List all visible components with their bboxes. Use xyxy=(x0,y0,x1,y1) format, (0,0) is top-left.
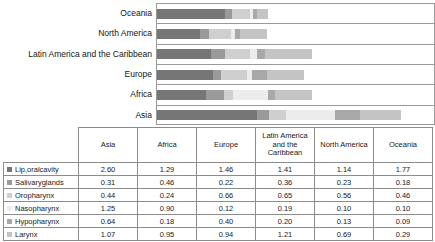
table-cell-value: 1.14 xyxy=(315,163,374,176)
chart-plot-grid: OceaniaNorth AmericaLatin America and th… xyxy=(0,3,435,125)
legend-swatch-icon xyxy=(7,180,12,185)
data-table-container: AsiaAfricaEuropeLatin America and the Ca… xyxy=(3,127,432,241)
table-row: Oropharynx0.440.240.660.650.560.46 xyxy=(4,189,433,202)
chart-category-label: Latin America and the Caribbean xyxy=(0,49,156,59)
table-cell-value: 0.64 xyxy=(79,215,138,228)
series-label: Nasopharynx xyxy=(15,204,59,213)
bar-segment xyxy=(269,110,286,120)
stacked-bar xyxy=(156,70,304,80)
table-cell-value: 1.21 xyxy=(256,228,315,241)
table-row-header: Salivaryglands xyxy=(4,176,79,189)
bar-segment xyxy=(209,29,231,39)
table-cell-value: 0.10 xyxy=(374,202,433,215)
bar-segment xyxy=(257,110,269,120)
bar-segment xyxy=(213,70,222,80)
chart-plot-cell xyxy=(156,3,435,23)
table-cell-value: 0.20 xyxy=(256,215,315,228)
table-row-header: Nasopharynx xyxy=(4,202,79,215)
data-table: AsiaAfricaEuropeLatin America and the Ca… xyxy=(3,127,433,241)
table-column-header: Africa xyxy=(138,128,197,163)
series-label: Lip,oralcavity xyxy=(15,165,59,174)
table-column-header: Asia xyxy=(79,128,138,163)
table-cell-value: 0.56 xyxy=(315,189,374,202)
table-column-header: Latin America and the Caribbean xyxy=(256,128,315,163)
chart-plot-cell xyxy=(156,23,435,43)
table-cell-value: 0.09 xyxy=(374,215,433,228)
table-cell-value: 0.90 xyxy=(138,202,197,215)
stacked-bar xyxy=(156,29,267,39)
chart-plot-cell xyxy=(156,84,435,104)
bar-segment xyxy=(360,110,402,120)
bar-segment xyxy=(156,70,213,80)
chart-category-label: Europe xyxy=(0,69,156,79)
chart-category-label: Asia xyxy=(0,110,156,120)
table-cell-value: 0.23 xyxy=(315,176,374,189)
chart-plot-cell xyxy=(156,44,435,64)
table-cell-value: 1.07 xyxy=(79,228,138,241)
bar-segment xyxy=(156,9,225,19)
bar-segment xyxy=(206,90,224,100)
table-cell-value: 0.44 xyxy=(79,189,138,202)
table-cell-value: 0.10 xyxy=(315,202,374,215)
legend-swatch-icon xyxy=(7,193,12,198)
table-row-header: Lip,oralcavity xyxy=(4,163,79,176)
table-row-header: Larynx xyxy=(4,228,79,241)
table-cell-value: 0.24 xyxy=(138,189,197,202)
table-cell-value: 1.25 xyxy=(79,202,138,215)
chart-category-row: North America xyxy=(0,23,435,43)
table-cell-value: 0.66 xyxy=(197,189,256,202)
table-cell-value: 0.36 xyxy=(256,176,315,189)
chart-and-table-figure: OceaniaNorth AmericaLatin America and th… xyxy=(0,0,435,242)
series-label: Salivaryglands xyxy=(15,178,64,187)
table-cell-value: 0.29 xyxy=(374,228,433,241)
legend-swatch-icon xyxy=(7,232,12,237)
table-cell-value: 0.12 xyxy=(197,202,256,215)
table-column-header: Oceania xyxy=(374,128,433,163)
bar-segment xyxy=(335,110,360,120)
bar-segment xyxy=(200,29,209,39)
stacked-bar xyxy=(156,110,401,120)
stacked-bar xyxy=(156,90,312,100)
table-cell-value: 0.94 xyxy=(197,228,256,241)
table-cell-value: 0.22 xyxy=(197,176,256,189)
chart-y-axis-line xyxy=(156,3,157,125)
stacked-bar xyxy=(156,49,312,59)
table-cell-value: 0.65 xyxy=(256,189,315,202)
table-cell-value: 0.18 xyxy=(374,176,433,189)
table-cell-value: 0.19 xyxy=(256,202,315,215)
table-header-row: AsiaAfricaEuropeLatin America and the Ca… xyxy=(4,128,433,163)
table-cell-value: 0.13 xyxy=(315,215,374,228)
table-cell-value: 0.31 xyxy=(79,176,138,189)
bar-segment xyxy=(211,49,225,59)
table-corner-cell xyxy=(4,128,79,163)
table-column-header: North America xyxy=(315,128,374,163)
bar-segment xyxy=(257,9,268,19)
bar-segment xyxy=(156,110,257,120)
table-cell-value: 1.46 xyxy=(197,163,256,176)
series-label: Larynx xyxy=(15,230,38,239)
bar-segment xyxy=(156,90,206,100)
chart-category-row: Africa xyxy=(0,84,435,104)
legend-swatch-icon xyxy=(7,206,12,211)
table-row-header: Oropharynx xyxy=(4,189,79,202)
table-cell-value: 2.60 xyxy=(79,163,138,176)
table-cell-value: 1.29 xyxy=(138,163,197,176)
table-row-header: Hypopharynx xyxy=(4,215,79,228)
chart-category-row: Latin America and the Caribbean xyxy=(0,44,435,64)
bar-segment xyxy=(221,70,247,80)
table-row: Nasopharynx1.250.900.120.190.100.10 xyxy=(4,202,433,215)
bar-segment xyxy=(225,49,250,59)
chart-category-row: Oceania xyxy=(0,3,435,23)
series-label: Hypopharynx xyxy=(15,217,59,226)
chart-category-label: North America xyxy=(0,28,156,38)
table-cell-value: 0.46 xyxy=(374,189,433,202)
chart-category-row: Europe xyxy=(0,64,435,84)
chart-plot-cell xyxy=(156,105,435,125)
bar-segment xyxy=(225,9,232,19)
bar-segment xyxy=(233,90,268,100)
chart-category-row: Asia xyxy=(0,105,435,125)
bar-segment xyxy=(275,90,312,100)
bar-segment xyxy=(156,49,211,59)
table-column-header: Europe xyxy=(197,128,256,163)
table-body: Lip,oralcavity2.601.291.461.411.141.77Sa… xyxy=(4,163,433,241)
